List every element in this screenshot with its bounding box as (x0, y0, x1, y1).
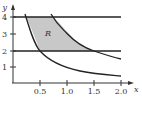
x-axis-label: x (134, 85, 139, 94)
region-label-r: R (44, 29, 51, 38)
x-tick-label: 1.5 (88, 87, 101, 96)
x-tick-label: 0.5 (34, 87, 47, 96)
y-tick-label: 2 (2, 47, 7, 56)
y-axis-arrow-icon (11, 4, 15, 10)
y-axis-label: y (1, 3, 7, 12)
x-tick-label: 1.0 (61, 87, 74, 96)
y-tick-label: 4 (2, 13, 7, 22)
y-tick-label: 1 (2, 63, 7, 72)
x-tick-label: 2.0 (115, 87, 128, 96)
graph: 0.5 1.0 1.5 2.0 1 2 3 4 y x R (0, 0, 142, 130)
y-tick-label: 3 (2, 30, 7, 39)
